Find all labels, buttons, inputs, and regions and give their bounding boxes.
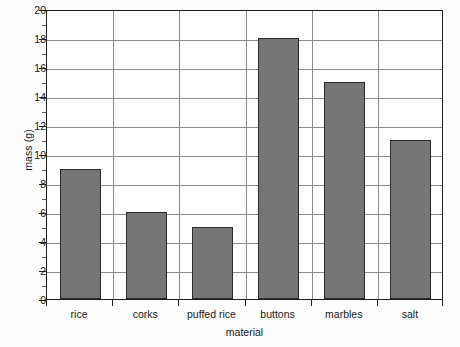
gridline-vertical <box>312 11 313 299</box>
y-tick-major <box>39 300 46 301</box>
y-tick-major <box>39 97 46 98</box>
y-tick-major <box>39 68 46 69</box>
gridline-vertical <box>113 11 114 299</box>
bar-rice <box>60 169 101 300</box>
x-tick-label-puffed-rice: puffed rice <box>178 308 244 321</box>
gridline-horizontal <box>47 69 442 70</box>
y-tick-major <box>39 39 46 40</box>
y-tick-major <box>39 126 46 127</box>
bar-puffed-rice <box>192 227 233 300</box>
gridline-horizontal <box>47 272 442 273</box>
gridline-horizontal <box>47 185 442 186</box>
gridline-vertical <box>378 11 379 299</box>
y-tick-major <box>39 271 46 272</box>
x-tick-label-corks: corks <box>112 308 178 321</box>
x-tick-label-marbles: marbles <box>311 308 377 321</box>
x-tick <box>46 300 47 306</box>
y-axis-ticks <box>39 10 46 300</box>
bar-salt <box>390 140 431 300</box>
y-tick-major <box>39 10 46 11</box>
bar-corks <box>126 212 167 299</box>
x-tick <box>112 300 113 306</box>
gridline-horizontal <box>47 40 442 41</box>
x-tick-label-rice: rice <box>46 308 112 321</box>
gridline-horizontal <box>47 127 442 128</box>
y-tick-major <box>39 213 46 214</box>
gridline-horizontal <box>47 243 442 244</box>
x-tick <box>377 300 378 306</box>
bar-buttons <box>258 38 299 299</box>
x-tick <box>311 300 312 306</box>
gridline-horizontal <box>47 156 442 157</box>
x-tick-label-buttons: buttons <box>245 308 311 321</box>
bar-chart: mass (g) 02468101214161820 ricecorkspuff… <box>0 0 460 347</box>
x-axis-ticks <box>46 300 443 307</box>
x-tick <box>442 300 443 306</box>
gridline-horizontal <box>47 98 442 99</box>
plot-area <box>46 10 443 300</box>
y-tick-major <box>39 155 46 156</box>
x-tick-label-salt: salt <box>377 308 443 321</box>
y-tick-major <box>39 242 46 243</box>
x-axis-title: material <box>46 326 443 338</box>
gridline-horizontal <box>47 214 442 215</box>
x-tick <box>245 300 246 306</box>
x-axis-tick-labels: ricecorkspuffed ricebuttonsmarblessalt <box>46 308 443 324</box>
bar-marbles <box>324 82 365 300</box>
gridline-vertical <box>246 11 247 299</box>
x-tick <box>178 300 179 306</box>
gridline-vertical <box>179 11 180 299</box>
y-tick-major <box>39 184 46 185</box>
